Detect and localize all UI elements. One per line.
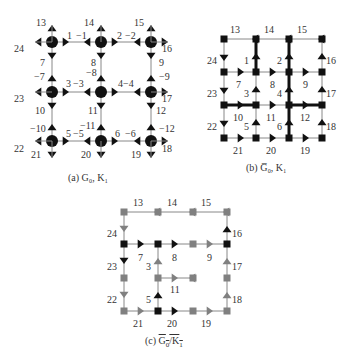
edge-label: 23 xyxy=(207,88,217,99)
node-square xyxy=(224,308,231,315)
edge-label: 21 xyxy=(133,318,143,329)
edge-label: 7 xyxy=(138,252,143,263)
edge-label: 21 xyxy=(31,149,41,160)
node-square xyxy=(190,241,197,248)
edge-label: 3 xyxy=(146,261,151,272)
edge-label: 22 xyxy=(207,121,217,132)
arrow-icon xyxy=(270,101,276,110)
arrow-icon xyxy=(154,258,163,264)
caption-c-prefix: (c) xyxy=(145,335,159,346)
edge-label: 14 xyxy=(84,17,94,28)
edge-label: 21 xyxy=(233,145,243,156)
edge-label: 12 xyxy=(300,112,310,123)
arrow-icon xyxy=(303,101,309,110)
arrow-icon xyxy=(147,124,156,130)
arrow-icon xyxy=(238,134,244,143)
arrow-icon xyxy=(138,240,144,249)
arrow-icon xyxy=(147,103,156,109)
node-circle xyxy=(95,86,107,98)
edge-label: 9 xyxy=(207,252,212,263)
arrow-icon xyxy=(154,292,163,298)
arrow-icon xyxy=(97,75,106,81)
edge-label: 4 xyxy=(277,88,282,99)
edge-label: 6 xyxy=(277,121,282,132)
arrow-icon xyxy=(285,86,294,92)
node-square xyxy=(286,102,293,109)
caption-a: (a) G₀, K₁ xyxy=(68,172,108,183)
edge-label: 7 xyxy=(236,79,241,90)
edge-label: 11 xyxy=(266,112,276,123)
node-square xyxy=(224,275,231,282)
caption-c: (c) G0/K1 xyxy=(145,335,183,349)
arrow-icon xyxy=(303,68,309,77)
edge-label: 20 xyxy=(81,149,91,160)
edge-label: 10 xyxy=(233,112,243,123)
edge-label: 15 xyxy=(297,24,307,35)
edge-label: −5 xyxy=(73,128,84,139)
edge-label: 5 xyxy=(66,128,71,139)
arrow-icon xyxy=(134,88,140,97)
edge-label: 22 xyxy=(14,143,24,154)
edge-label: 19 xyxy=(201,318,211,329)
edge-label: 3 xyxy=(244,88,249,99)
edge-label: 20 xyxy=(266,145,276,156)
edge-label: 10 xyxy=(35,105,45,116)
edge-label: 23 xyxy=(107,261,117,272)
node-square xyxy=(121,275,128,282)
arrow-icon xyxy=(238,101,244,110)
edge-label: −2 xyxy=(125,30,136,41)
edge-label: −7 xyxy=(34,71,45,82)
edge-label: 15 xyxy=(134,17,144,28)
arrow-icon xyxy=(252,53,261,59)
arrow-icon xyxy=(147,53,156,59)
edge-label: 7 xyxy=(40,57,45,68)
graph-figure: 13141524161−12−27−78−89−93−34−4231710111… xyxy=(0,0,351,363)
arrow-icon xyxy=(48,53,57,59)
arrow-icon xyxy=(172,307,178,316)
edge-label: 16 xyxy=(162,43,172,54)
node-square xyxy=(121,209,128,216)
arrow-icon xyxy=(207,307,213,316)
node-square xyxy=(155,308,162,315)
arrow-icon xyxy=(285,119,294,125)
arrow-icon xyxy=(97,53,106,59)
node-square xyxy=(155,241,162,248)
edge-label: −12 xyxy=(159,123,175,134)
edge-label: 17 xyxy=(232,261,242,272)
arrow-icon xyxy=(138,307,144,316)
arrow-icon xyxy=(220,121,229,127)
edge-label: 11 xyxy=(88,105,98,116)
edge-label: 22 xyxy=(107,294,117,305)
edge-label: 17 xyxy=(326,88,336,99)
caption-b: (b) G̅₀, K₁ xyxy=(246,162,287,173)
edge-label: 24 xyxy=(107,228,117,239)
arrow-icon xyxy=(97,103,106,109)
node-square xyxy=(121,241,128,248)
edge-label: −8 xyxy=(86,67,97,78)
edge-label: 23 xyxy=(14,93,24,104)
edge-label: 1 xyxy=(244,55,249,66)
edge-label: 13 xyxy=(133,197,143,208)
arrow-icon xyxy=(223,292,232,298)
edge-label: −10 xyxy=(30,123,46,134)
arrow-icon xyxy=(270,68,276,77)
arrow-icon xyxy=(97,124,106,130)
arrow-icon xyxy=(285,53,294,59)
arrow-icon xyxy=(207,240,213,249)
edge-label: 1 xyxy=(67,30,72,41)
node-square xyxy=(319,69,326,76)
edge-label: −1 xyxy=(76,30,87,41)
arrow-icon xyxy=(223,226,232,232)
edge-label: 16 xyxy=(232,228,242,239)
edge-label: 24 xyxy=(14,43,24,54)
arrow-icon xyxy=(48,75,57,81)
edge-label: 14 xyxy=(167,197,177,208)
node-square xyxy=(286,135,293,142)
edge-label: 9 xyxy=(303,79,308,90)
edge-label: 20 xyxy=(167,318,177,329)
arrow-icon xyxy=(84,137,90,146)
arrow-icon xyxy=(252,86,261,92)
edge-label: −6 xyxy=(125,128,136,139)
node-square xyxy=(221,36,228,43)
node-square xyxy=(221,135,228,142)
